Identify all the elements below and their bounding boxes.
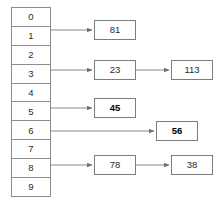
bucket-cell-9[interactable]: 9 — [12, 178, 50, 197]
bucket-cell-0[interactable]: 0 — [12, 8, 50, 27]
bucket-index-label: 1 — [28, 31, 33, 41]
bucket-index-label: 7 — [28, 144, 33, 154]
node-box-113[interactable]: 113 — [171, 60, 213, 80]
bucket-index-label: 0 — [28, 12, 33, 22]
bucket-cell-5[interactable]: 5 — [12, 102, 50, 121]
node-value: 56 — [172, 126, 183, 136]
hash-table-diagram: 0123456789 812311345567838 — [0, 0, 221, 205]
bucket-index-label: 4 — [28, 88, 33, 98]
bucket-cell-8[interactable]: 8 — [12, 159, 50, 178]
bucket-index-label: 8 — [28, 163, 33, 173]
bucket-index-label: 3 — [28, 69, 33, 79]
bucket-cell-3[interactable]: 3 — [12, 65, 50, 84]
bucket-cell-1[interactable]: 1 — [12, 27, 50, 46]
bucket-index-label: 5 — [28, 107, 33, 117]
node-value: 45 — [110, 103, 121, 113]
bucket-array: 0123456789 — [11, 7, 51, 197]
bucket-index-label: 6 — [28, 126, 33, 136]
bucket-cell-4[interactable]: 4 — [12, 84, 50, 103]
node-value: 78 — [110, 160, 121, 170]
node-box-38[interactable]: 38 — [171, 155, 213, 175]
node-box-23[interactable]: 23 — [94, 60, 136, 80]
bucket-cell-2[interactable]: 2 — [12, 46, 50, 65]
node-value: 81 — [110, 25, 121, 35]
bucket-index-label: 9 — [28, 182, 33, 192]
node-value: 38 — [187, 160, 198, 170]
node-box-78[interactable]: 78 — [94, 155, 136, 175]
bucket-cell-7[interactable]: 7 — [12, 140, 50, 159]
bucket-cell-6[interactable]: 6 — [12, 121, 50, 140]
node-box-56[interactable]: 56 — [156, 121, 198, 141]
node-box-45[interactable]: 45 — [94, 98, 136, 118]
node-box-81[interactable]: 81 — [94, 20, 136, 40]
bucket-index-label: 2 — [28, 50, 33, 60]
node-value: 113 — [184, 65, 199, 75]
node-value: 23 — [110, 65, 121, 75]
